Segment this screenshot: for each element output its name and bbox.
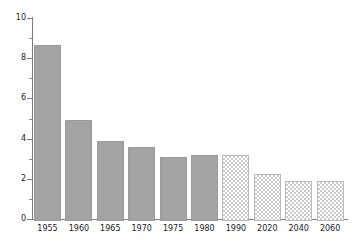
bar-2020	[254, 174, 281, 221]
y-tick-label: 6	[4, 94, 26, 102]
bar-1970	[128, 147, 155, 221]
bar-1990	[222, 155, 249, 221]
plot-area	[33, 16, 351, 221]
y-tick-label: 0	[4, 215, 26, 223]
bar-1960	[65, 120, 92, 222]
bar-2040	[285, 181, 312, 221]
y-tick-label: 2	[4, 175, 26, 183]
bar-1975	[160, 157, 187, 221]
x-tick-label: 2060	[310, 224, 350, 233]
bar-1980	[191, 155, 218, 221]
bar-1955	[34, 45, 61, 221]
bar-2060	[317, 181, 344, 221]
y-tick-label: 4	[4, 135, 26, 143]
y-tick-label: 8	[4, 54, 26, 62]
bar-chart: 0246810 19551960196519701975198019902020…	[0, 0, 358, 247]
bar-1965	[97, 141, 124, 221]
y-tick-label: 10	[4, 14, 26, 22]
